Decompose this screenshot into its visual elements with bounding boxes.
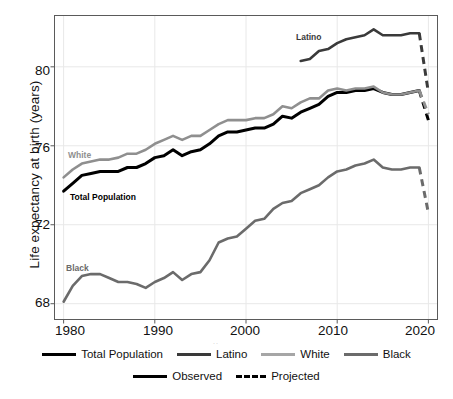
legend-label-total-population: Total Population — [81, 348, 163, 360]
gridlines — [55, 16, 438, 320]
legend-series-row: Total PopulationLatinoWhiteBlack — [0, 348, 453, 360]
legend-swatch-observed — [133, 375, 167, 378]
legend-item-latino[interactable]: Latino — [177, 348, 247, 360]
legend-label-projected: Projected — [271, 370, 320, 382]
legend-label-black: Black — [383, 348, 411, 360]
legend-label-white: White — [300, 348, 329, 360]
legend-item-observed[interactable]: Observed — [133, 370, 222, 382]
life-expectancy-chart: Life expectancy at birth (years) 80 76 7… — [0, 0, 453, 399]
legend-swatch-latino — [177, 353, 211, 356]
legend-label-observed: Observed — [172, 370, 222, 382]
series-line-latino — [301, 29, 420, 61]
series-projected-white — [419, 91, 428, 115]
legend-style-row: ObservedProjected — [0, 370, 453, 382]
legend-label-latino: Latino — [216, 348, 247, 360]
legend-swatch-white — [261, 353, 295, 356]
legend-swatch-black — [344, 353, 378, 356]
series-projected-latino — [419, 33, 428, 92]
legend-item-white[interactable]: White — [261, 348, 329, 360]
series-line-black — [64, 160, 420, 302]
legend-swatch-total-population — [42, 353, 76, 356]
series-line-total-population — [64, 89, 420, 192]
legend-item-black[interactable]: Black — [344, 348, 411, 360]
plot-area — [0, 0, 453, 399]
legend-item-total-population[interactable]: Total Population — [42, 348, 163, 360]
axis-ticks — [51, 67, 429, 324]
legend-item-projected[interactable]: Projected — [236, 370, 320, 382]
legend-swatch-projected — [236, 375, 266, 378]
series-projected-black — [419, 168, 428, 213]
